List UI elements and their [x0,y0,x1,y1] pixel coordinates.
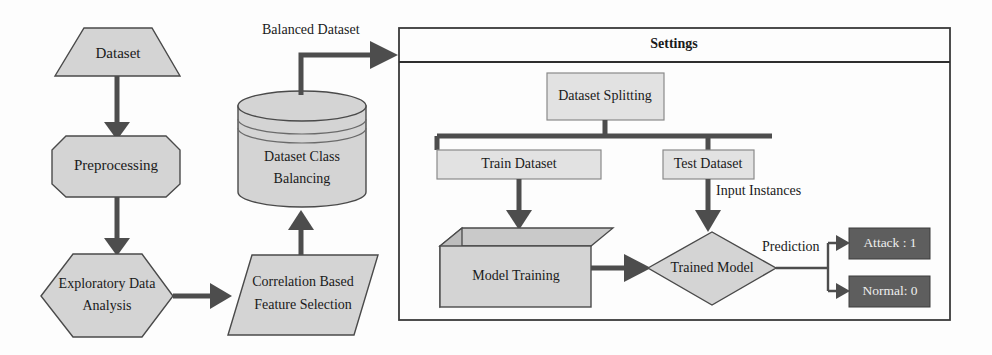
edge-label-prediction: Prediction [762,239,820,254]
node-model-training: Model Training [440,228,613,307]
node-feature-selection-label-line1: Correlation Based [252,274,353,289]
node-train-dataset-label: Train Dataset [481,156,556,171]
node-dataset-label: Dataset [96,45,142,61]
node-balancing-label-line2: Balancing [274,171,331,186]
node-dataset-splitting: Dataset Splitting [547,73,664,120]
arrow-balanced-dataset [301,41,398,95]
node-model-training-label: Model Training [472,268,560,283]
arrow-model-training-to-trained-model [591,254,651,282]
node-test-dataset-label: Test Dataset [674,156,743,171]
node-feature-selection-label-line2: Feature Selection [254,297,352,312]
arrow-dataset-to-preprocessing [104,76,130,140]
node-trained-model-label: Trained Model [670,260,753,275]
output-attack: Attack : 1 [849,228,930,259]
output-normal-label: Normal: 0 [862,283,917,298]
node-balancing-label-line1: Dataset Class [264,149,340,164]
node-dataset-class-balancing: Dataset Class Balancing [238,91,366,207]
output-normal: Normal: 0 [849,276,930,307]
output-attack-label: Attack : 1 [863,235,916,250]
arrow-feature-selection-to-balancing [288,210,314,255]
node-preprocessing: Preprocessing [52,136,180,197]
node-dataset-splitting-label: Dataset Splitting [558,88,652,103]
settings-panel-title: Settings [650,36,698,51]
node-exploratory-data-analysis: Exploratory Data Analysis [41,254,173,337]
edge-label-balanced-dataset: Balanced Dataset [262,22,360,37]
node-feature-selection: Correlation Based Feature Selection [228,255,378,335]
arrow-preprocessing-to-eda [104,197,130,256]
connector-split [437,120,772,150]
arrow-train-to-model-training [506,179,532,230]
node-dataset: Dataset [55,28,180,76]
node-eda-label-line1: Exploratory Data [59,276,157,291]
pipeline-diagram: Dataset Preprocessing Exploratory Data A… [0,0,992,355]
edge-label-input-instances: Input Instances [716,183,801,198]
arrow-eda-to-feature-selection [173,283,232,309]
node-preprocessing-label: Preprocessing [74,157,159,173]
diagram-canvas: Dataset Preprocessing Exploratory Data A… [0,0,992,355]
node-eda-label-line2: Analysis [83,298,132,313]
node-train-dataset: Train Dataset [437,150,601,179]
node-test-dataset: Test Dataset [663,150,754,179]
node-trained-model: Trained Model [648,232,776,305]
